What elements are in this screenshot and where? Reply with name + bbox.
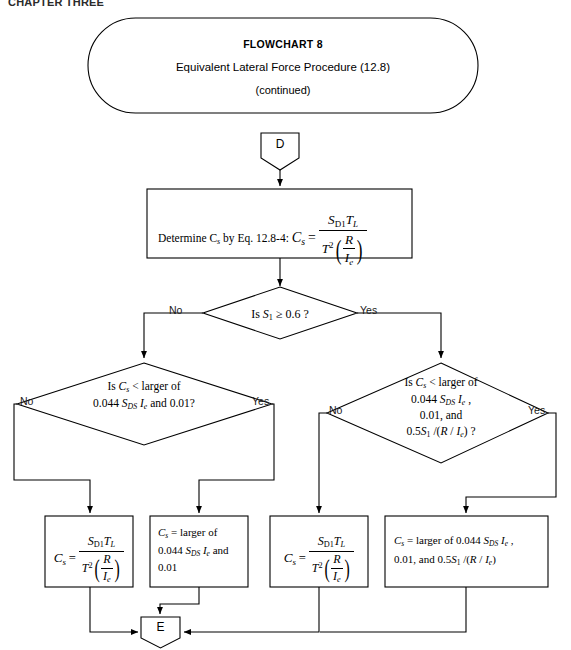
rb3-t-exp: 2: [318, 560, 322, 569]
decision-right-yes-label: Yes: [528, 405, 545, 416]
rb4-l2a: 0.01, and 0.5: [394, 553, 451, 565]
flowchart-continued: (continued): [88, 84, 478, 96]
edge-left-yes: [199, 404, 274, 513]
dr-l1b: < larger of: [426, 376, 477, 388]
process-den-ie-sub: e: [349, 257, 353, 267]
edge-box2-to-e: [160, 587, 199, 614]
edge-box4-to-e: [320, 587, 466, 632]
dr-l2tail: ,: [465, 393, 471, 405]
connector-e-label: E: [141, 620, 180, 634]
flowchart-title: Equivalent Lateral Force Procedure (12.8…: [88, 61, 478, 73]
result-box-2-text: Cs = larger of 0.044 SDS Ie and 0.01: [158, 524, 250, 576]
rb1-cs: C: [54, 550, 63, 565]
process-num-sd1: S: [328, 212, 335, 227]
decision-left-text: Is Cs < larger of 0.044 SDS Ie and 0.01?: [64, 379, 224, 412]
decision-right-text: Is Cs < larger of 0.044 SDS Ie , 0.01, a…: [361, 375, 521, 441]
rb1-eq: =: [69, 551, 76, 565]
result-box-1-text: Cs = SD1TL T2( R Ie ): [47, 535, 131, 584]
rb4-l2end: ): [492, 553, 496, 565]
rb2-l2b: and: [210, 544, 229, 556]
right-paren-icon: ): [114, 558, 119, 580]
process-num-tl: T: [346, 212, 353, 227]
process-den-t: T: [322, 240, 329, 255]
rb3-sd1-sub: D1: [324, 540, 334, 549]
rb4-slash: /: [477, 553, 486, 565]
rb3-tl: T: [334, 534, 341, 548]
rb2-l3: 0.01: [158, 559, 250, 576]
dr-l4a: 0.5: [406, 425, 420, 437]
process-box-text: Determine Cs by Eq. 12.8-4: Cs = SD1TL T…: [158, 212, 403, 267]
decision-left-yes-label: Yes: [252, 396, 269, 407]
process-mid: by Eq. 12.8-4:: [220, 232, 292, 244]
rb3-eq: =: [299, 551, 306, 565]
rb3-cs: C: [284, 550, 293, 565]
decision-1-no-label: No: [169, 305, 182, 316]
right-paren-icon: ): [344, 558, 349, 580]
process-den-r: R: [343, 232, 355, 249]
rb1-cs-sub: s: [63, 557, 67, 567]
rb1-t-exp: 2: [88, 560, 92, 569]
rb4-l2b: /(: [460, 553, 469, 565]
left-paren-icon: (: [335, 238, 341, 262]
dl-sds-sub: DS: [128, 402, 138, 411]
process-num-sd1-sub: D1: [335, 219, 346, 229]
rb3-cs-sub: s: [293, 557, 297, 567]
dr-l2a: 0.044: [411, 393, 440, 405]
d1-comparison: ≥ 0.6 ?: [273, 307, 309, 321]
dr-l4end: ) ?: [464, 425, 476, 437]
process-cs-subscript: s: [301, 236, 305, 247]
decision-right-no-label: No: [329, 405, 342, 416]
dl-l1a: Is: [107, 380, 118, 392]
dl-l2b: and 0.01?: [147, 397, 195, 409]
process-cs: C: [292, 229, 302, 245]
dr-l3: 0.01, and: [361, 408, 521, 424]
rb3-ie-sub: e: [337, 575, 341, 584]
dl-l1b: < larger of: [129, 380, 180, 392]
edge-box1-to-e: [90, 587, 138, 632]
edge-right-no: [319, 413, 327, 513]
left-paren-icon: (: [94, 558, 99, 580]
decision-1-yes-label: Yes: [360, 305, 377, 316]
rb1-tl-sub: L: [111, 540, 116, 549]
result-box-4-text: Cs = larger of 0.044 SDS Ie , 0.01, and …: [394, 531, 546, 570]
connector-d-label: D: [261, 137, 299, 151]
d1-lead: Is: [251, 307, 263, 321]
process-equals: =: [308, 230, 316, 245]
result-box-3-text: Cs = SD1TL T2( R Ie ): [272, 535, 366, 584]
process-den-t-exp: 2: [329, 240, 334, 250]
process-num-tl-sub: L: [353, 219, 358, 229]
edge-decision1-no: [144, 313, 203, 358]
rb4-l1mid: = larger of 0.044: [404, 534, 483, 546]
rb1-r: R: [101, 553, 113, 569]
rb1-sd1-sub: D1: [94, 540, 104, 549]
dr-l1a: Is: [404, 376, 415, 388]
rb1-tl: T: [104, 534, 111, 548]
rb1-ie-sub: e: [107, 575, 111, 584]
dr-l4b: /(: [431, 425, 441, 437]
rb4-r: R: [470, 553, 477, 565]
decision-left-no-label: No: [20, 396, 33, 407]
edge-decision1-yes: [357, 313, 441, 358]
rb2-l2a: 0.044: [158, 544, 186, 556]
edge-left-no: [14, 404, 90, 513]
dl-ie: I: [137, 397, 144, 409]
left-paren-icon: (: [324, 558, 329, 580]
right-paren-icon: ): [357, 238, 363, 262]
rb2-sds-sub: DS: [191, 549, 200, 558]
rb3-r: R: [331, 553, 343, 569]
rb3-tl-sub: L: [341, 540, 346, 549]
flowchart-page: CHAPTER THREE: [0, 0, 571, 650]
decision-1-text: Is S1 ≥ 0.6 ?: [220, 306, 340, 323]
dr-sds-sub: DS: [446, 398, 456, 407]
dr-ie: I: [455, 393, 462, 405]
title-oval-text: FLOWCHART 8 Equivalent Lateral Force Pro…: [88, 38, 478, 96]
flowchart-number: FLOWCHART 8: [88, 38, 478, 50]
edge-box3-to-e: [184, 587, 319, 632]
rb4-sds-sub: DS: [489, 539, 498, 548]
rb4-l1tail: ,: [508, 534, 514, 546]
process-lead: Determine C: [158, 232, 217, 244]
rb2-l1: = larger of: [168, 526, 217, 538]
dl-l2a: 0.044: [93, 397, 122, 409]
